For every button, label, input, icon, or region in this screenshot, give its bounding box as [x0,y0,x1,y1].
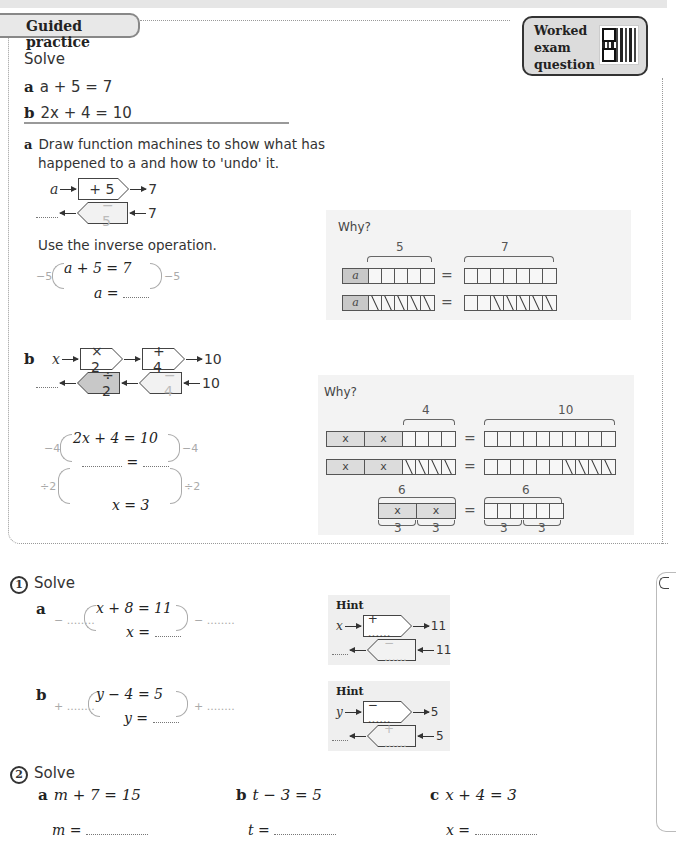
equation: a + 5 = 7 [40,78,113,96]
equation: 2x + 4 = 10 [41,104,132,122]
q2-part-b: bt − 3 = 5 [236,786,322,804]
answer-blank[interactable] [274,825,336,835]
answer-blank[interactable] [153,713,179,723]
brace-label: 3 [394,521,402,535]
brace-label: 5 [396,240,404,254]
equation-line-2: y = [124,710,179,726]
equals-sign: = [464,458,476,474]
variable-cell: x [379,504,417,518]
equation: m + 7 = 15 [54,786,141,804]
bar-model-lhs: a [342,268,435,284]
frame-top-line [140,20,510,21]
answer-blank[interactable] [475,825,537,835]
why-panel-a: Why? 5 7 a = a = [326,210,631,320]
machine-input: 7 [148,205,157,221]
machine-op: − 5 [102,197,127,229]
q2-answer-c: x = [446,822,537,838]
arrow-left-icon [350,650,366,651]
answer-blank[interactable] [86,825,148,835]
q2-answer-a: m = [52,822,148,838]
bar-model-lhs-crossed: a [342,295,435,311]
curved-arrow-icon [84,605,96,631]
lhs: x = [446,822,470,838]
answer-blank[interactable] [82,457,122,467]
qr-code-icon[interactable] [600,26,638,64]
q2-answer-b: t = [248,822,336,838]
answer-blank[interactable] [332,731,348,741]
part-a-text-2: happened to a and how to 'undo' it. [38,155,279,171]
brace-label: 6 [522,483,530,497]
answer-blank[interactable] [332,645,348,655]
machine-op-box[interactable]: + ...... [363,615,401,637]
right-operation-blank[interactable]: − ........ [194,614,235,627]
arrow-right-icon [60,189,76,190]
left-operation: ÷2 [40,480,56,493]
part-label: b [236,786,247,804]
working-line-2: a = [94,285,149,301]
brace-label: 7 [501,240,509,254]
working-line-1: 2x + 4 = 10 [73,430,158,446]
arrow-left-icon [130,213,146,214]
brace [367,256,432,262]
machine-input: y [336,705,343,719]
machine-op-box[interactable]: − ...... [363,701,401,723]
equals-sign: = [464,502,476,518]
machine-op: + 5 [89,181,114,197]
machine-op-box: ÷ 2 [88,372,120,394]
machine-op-box[interactable]: + ...... [378,725,416,747]
intro-part-b: b2x + 4 = 10 [24,104,132,122]
hint-box-b: Hint y − ...... 5 + ...... 5 [328,681,450,751]
q1-heading: 1Solve [10,574,75,594]
arrow-right-icon [345,626,361,627]
lhs: x = [126,624,150,640]
bar-model-rhs [484,431,616,447]
machine-op: ÷ 2 [102,367,119,399]
part-label: b [24,104,35,122]
machine-input: a [50,181,58,197]
left-operation: −5 [36,270,52,283]
part-label: a [38,786,48,804]
variable-cell: x [365,460,403,474]
machine-input: 10 [202,375,220,391]
why-title: Why? [324,385,357,399]
answer-blank[interactable] [155,627,181,637]
arrow-right-icon [130,189,146,190]
arrow-right-icon [345,712,361,713]
arrow-left-icon [418,736,434,737]
answer-blank[interactable] [123,288,149,298]
equals-sign: = [464,430,476,446]
arrow-left-icon [418,650,434,651]
function-machine-inverse: − 5 7 [36,202,157,224]
machine-output: 11 [431,619,446,633]
right-operation-blank[interactable]: + ........ [194,700,235,713]
part-label: a [24,78,34,96]
arrow-left-icon [122,383,138,384]
answer-blank[interactable] [36,208,58,218]
answer-blank[interactable] [36,378,58,388]
machine-op: − ...... [384,636,415,664]
hint-title: Hint [336,685,364,698]
bar-model-lhs-final: x x [378,503,456,519]
q2-part-c: cx + 4 = 3 [430,786,517,804]
brace-label: 3 [432,521,440,535]
machine-input: x [336,619,343,633]
variable-cell: x [365,432,403,446]
bar-model-rhs [464,268,557,284]
arrow-right-icon [62,359,78,360]
why-title: Why? [338,220,371,234]
right-operation: ÷2 [184,480,200,493]
bar-model-rhs-crossed [484,459,616,475]
frame-right-line [662,78,663,544]
machine-output: 7 [148,181,157,197]
brace-label: 3 [538,521,546,535]
brace [403,419,455,425]
worked-exam-question-badge[interactable]: Worked exam question [522,16,648,76]
hint-machine-inverse: − ...... 11 [332,639,451,661]
part-label: b [24,350,35,368]
curved-arrow-icon [58,468,70,504]
machine-op-box[interactable]: − ...... [378,639,416,661]
brace [464,256,554,262]
machine-input: 11 [436,643,451,657]
answer-blank[interactable] [143,457,169,467]
equation-line-2: x = [126,624,181,640]
